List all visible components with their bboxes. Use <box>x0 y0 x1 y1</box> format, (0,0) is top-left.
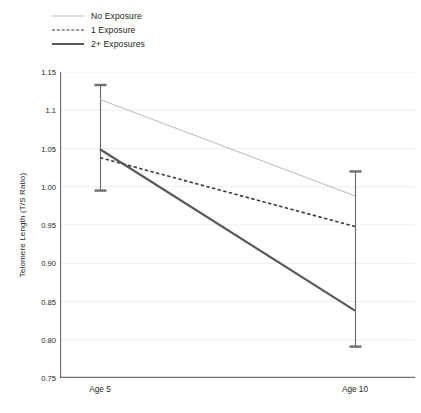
data-series <box>100 100 355 311</box>
y-axis-tick-label: 1.00 <box>22 182 56 191</box>
legend-line-sample-two-exposures <box>52 38 84 50</box>
legend-item-two-exposures: 2+ Exposures <box>52 37 252 51</box>
series-line-no-exposure <box>100 100 355 196</box>
y-axis-tick-label: 0.85 <box>22 297 56 306</box>
plot-area <box>60 72 415 378</box>
legend-item-one-exposure: 1 Exposure <box>52 23 252 37</box>
y-axis-tick-labels: 1.151.11.051.000.950.900.850.800.75 <box>18 72 56 378</box>
y-axis-tick-label: 1.1 <box>22 106 56 115</box>
y-axis-tick-label: 1.15 <box>22 68 56 77</box>
y-axis-tick-label: 0.90 <box>22 259 56 268</box>
y-axis-tick-label: 0.80 <box>22 335 56 344</box>
legend-label-two-exposures: 2+ Exposures <box>91 38 145 50</box>
x-axis-tick-labels: Age 5Age 10 <box>60 385 415 399</box>
telomere-length-line-chart: No Exposure 1 Exposure 2+ Exposures Telo… <box>0 0 421 413</box>
x-axis-tick-label-age-10: Age 10 <box>342 385 368 394</box>
x-axis-tick-label-age-5: Age 5 <box>89 385 110 394</box>
series-line-2-exposures <box>100 149 355 310</box>
y-axis-tick-label: 0.75 <box>22 374 56 383</box>
plot-svg <box>60 72 415 378</box>
legend-label-no-exposure: No Exposure <box>91 10 142 22</box>
series-line-1-exposure <box>100 158 355 227</box>
error-bars <box>95 85 362 347</box>
chart-legend: No Exposure 1 Exposure 2+ Exposures <box>52 9 252 51</box>
legend-line-sample-one-exposure <box>52 24 84 36</box>
legend-line-sample-no-exposure <box>52 10 84 22</box>
gridlines <box>60 72 415 378</box>
y-axis-tick-label: 1.05 <box>22 144 56 153</box>
legend-label-one-exposure: 1 Exposure <box>91 24 135 36</box>
y-axis-tick-label: 0.95 <box>22 221 56 230</box>
legend-item-no-exposure: No Exposure <box>52 9 252 23</box>
